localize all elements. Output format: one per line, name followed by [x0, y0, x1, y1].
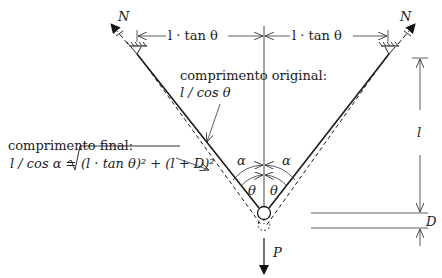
angle-theta-left: θ [248, 183, 256, 198]
angle-theta-right: θ [270, 183, 278, 198]
force-label-left: N [117, 9, 130, 24]
angle-alpha-left: α [237, 153, 246, 168]
original-length-title: comprimento original: [180, 68, 327, 83]
vertical-dimension [311, 58, 428, 246]
original-length-formula: l / cos θ [180, 85, 231, 100]
force-arrow-right [398, 24, 415, 44]
right-support [379, 42, 399, 54]
deflection-label: D [425, 214, 437, 229]
final-length-lhs: l / cos α = [10, 156, 77, 171]
angle-alpha-right: α [282, 153, 291, 168]
final-length-title: comprimento final: [8, 138, 133, 153]
dim-label-right: l · tan θ [292, 28, 342, 43]
original-pointer [207, 104, 220, 142]
vertical-dim-label: l [417, 125, 421, 140]
final-length-rhs: (l · tan θ)² + (l + D)² [81, 156, 214, 171]
load-label: P [272, 245, 282, 260]
dim-label-left: l · tan θ [168, 28, 218, 43]
left-support [127, 42, 147, 54]
truss-diagram: N N l · tan θ l · tan θ comprimento orig… [0, 0, 442, 278]
force-label-right: N [399, 9, 412, 24]
joint-circle [258, 207, 271, 220]
